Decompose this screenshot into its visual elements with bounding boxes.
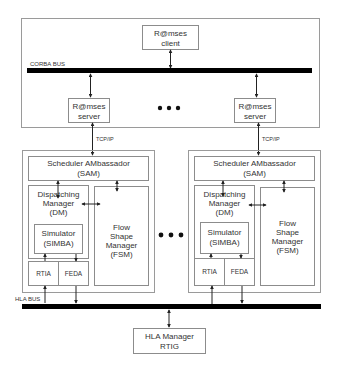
feda-label-2: FEDA: [231, 268, 249, 275]
sam-label-2-line1: Scheduler AMbassador: [213, 159, 296, 168]
fsm-label-1-line1: Flow: [113, 223, 130, 232]
sam-label-2-line2: (SAM): [243, 169, 266, 178]
hla-manager-label-line1: HLA Manager: [145, 332, 194, 341]
tcpip-label-2: TCP/IP: [262, 136, 280, 142]
hla-bus-label: HLA BUS: [15, 296, 40, 302]
sam-label-1-line2: (SAM): [77, 169, 100, 178]
fsm-label-2-line4: (FSM): [276, 246, 299, 255]
dm-label-1-line3: (DM): [50, 208, 68, 217]
corba-bus: [27, 68, 312, 73]
server2-label-line1: R@mses: [238, 102, 271, 111]
server1-label-line1: R@mses: [72, 102, 105, 111]
dm-label-1-line2: Manager: [43, 199, 75, 208]
server1-label-line2: server: [78, 112, 101, 121]
ellipsis-modules: [159, 233, 184, 238]
simulation-module-1: Scheduler AMbassador (SAM) Dispatching M…: [23, 151, 155, 304]
simulator-label-1-line2: (SIMBA): [43, 239, 74, 248]
client-label-line1: R@mses: [154, 29, 187, 38]
fsm-label-2-line1: Flow: [279, 219, 296, 228]
tcpip-label-1: TCP/IP: [96, 136, 114, 142]
simulator-label-1-line1: Simulator: [42, 229, 76, 238]
client-label-line2: client: [161, 39, 180, 48]
hla-manager-label-line2: RTIG: [160, 342, 179, 351]
hla-bus: [22, 304, 321, 309]
ramses-client-box: R@mses client: [143, 26, 199, 50]
server2-label-line2: server: [244, 112, 267, 121]
architecture-diagram: R@mses client CORBA BUS R@mses server R@…: [0, 0, 338, 371]
ellipsis-servers: [158, 106, 180, 110]
corba-bus-label: CORBA BUS: [30, 61, 65, 67]
simulation-module-2: Scheduler AMbassador (SAM) Dispatching M…: [189, 151, 321, 305]
fsm-label-1-line3: Manager: [106, 241, 138, 250]
dm-label-2-line3: (DM): [216, 208, 234, 217]
dm-label-2-line1: Dispatching: [204, 190, 246, 199]
rtia-label-2: RTIA: [202, 268, 217, 275]
fsm-label-1-line2: Shape: [110, 232, 134, 241]
fsm-label-1-line4: (FSM): [110, 250, 133, 259]
fsm-label-2-line2: Shape: [276, 228, 300, 237]
simulator-label-2-line2: (SIMBA): [209, 238, 240, 247]
simulator-label-2-line1: Simulator: [208, 228, 242, 237]
dm-label-2-line2: Manager: [209, 199, 241, 208]
ramses-server-box-1: R@mses server: [69, 99, 110, 123]
ramses-server-box-2: R@mses server: [235, 99, 276, 123]
rtia-label-1: RTIA: [36, 270, 51, 277]
sam-label-1-line1: Scheduler AMbassador: [47, 159, 130, 168]
fsm-label-2-line3: Manager: [272, 237, 304, 246]
hla-manager-box: HLA Manager RTIG: [134, 329, 206, 354]
feda-label-1: FEDA: [65, 270, 83, 277]
